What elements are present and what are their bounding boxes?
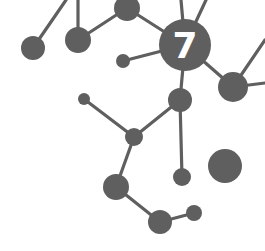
network-node [218, 72, 248, 102]
network-node [78, 93, 90, 105]
network-node [148, 210, 172, 234]
network-node [103, 174, 129, 200]
network-edge [84, 99, 134, 137]
network-node [173, 168, 191, 186]
network-node [186, 205, 202, 221]
hub-node-number-label: 7 [172, 25, 197, 66]
network-node [65, 27, 91, 53]
molecule-network-graphic: 7 [0, 0, 265, 251]
network-node [21, 36, 45, 60]
network-node [125, 128, 143, 146]
network-nodes [21, 0, 248, 234]
network-node [114, 0, 140, 21]
network-node [208, 149, 242, 183]
network-node [168, 88, 192, 112]
network-node [116, 54, 130, 68]
